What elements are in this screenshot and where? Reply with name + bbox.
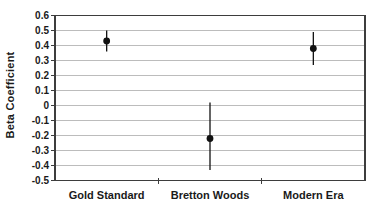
- y-tick-label: -0.1: [32, 115, 50, 126]
- y-axis-title: Beta Coefficient: [4, 35, 16, 155]
- y-tick-label: 0.5: [35, 25, 49, 36]
- plot-area: 0.60.50.40.30.20.10-0.1-0.2-0.3-0.4-0.5G…: [0, 0, 380, 216]
- y-tick-label: -0.3: [32, 145, 50, 156]
- y-tick-label: 0.4: [35, 40, 49, 51]
- data-point-bretton-woods: [207, 135, 214, 142]
- data-point-gold-standard: [103, 38, 110, 45]
- y-tick-label: 0.1: [35, 85, 49, 96]
- y-tick-label: 0.2: [35, 70, 49, 81]
- x-category-label: Modern Era: [283, 189, 344, 201]
- y-tick-label: -0.2: [32, 130, 50, 141]
- y-tick-label: 0.3: [35, 55, 49, 66]
- y-tick-label: -0.5: [32, 175, 50, 186]
- y-tick-label: 0: [43, 100, 49, 111]
- y-tick-label: -0.4: [32, 160, 50, 171]
- beta-coefficient-chart: Beta Coefficient 0.60.50.40.30.20.10-0.1…: [0, 0, 380, 216]
- x-category-label: Gold Standard: [69, 189, 145, 201]
- y-tick-label: 0.6: [35, 10, 49, 21]
- x-category-label: Bretton Woods: [171, 189, 250, 201]
- data-point-modern-era: [310, 45, 317, 52]
